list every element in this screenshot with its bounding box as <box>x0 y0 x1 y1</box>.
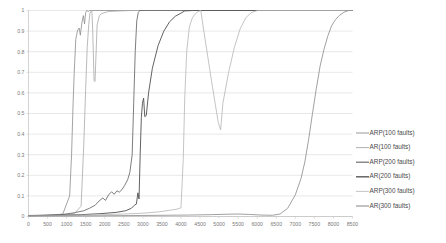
legend-label: AR(100 faults) <box>370 143 411 151</box>
x-tick-label: 1500 <box>80 221 92 227</box>
series-line-arp300-faults <box>29 11 353 216</box>
y-tick-label: 1 <box>22 7 25 13</box>
y-tick-label: 0.9 <box>17 28 24 34</box>
chart-container: 00.10.20.30.40.50.60.70.80.91 0500100015… <box>0 0 446 243</box>
x-tick-label: 1000 <box>61 221 73 227</box>
y-axis-tick-labels: 00.10.20.30.40.50.60.70.80.91 <box>17 7 28 219</box>
x-tick-label: 4000 <box>175 221 187 227</box>
y-tick-label: 0.7 <box>17 69 24 75</box>
chart-legend: ARP(100 faults)AR(100 faults)ARP(200 fau… <box>356 129 415 210</box>
series-line-arp200-faults <box>29 11 353 216</box>
y-tick-label: 0 <box>22 213 25 219</box>
y-tick-label: 0.2 <box>17 172 24 178</box>
x-tick-label: 5500 <box>232 221 244 227</box>
x-tick-label: 7500 <box>309 221 321 227</box>
legend-label: ARP(200 faults) <box>370 158 415 166</box>
x-tick-label: 7000 <box>290 221 302 227</box>
series-line-arp100-faults <box>29 11 353 216</box>
y-tick-label: 0.4 <box>17 131 24 137</box>
x-axis-tick-labels: 0500100015002000250030003500400045005000… <box>27 217 358 227</box>
y-tick-label: 0.1 <box>17 193 24 199</box>
line-chart: 00.10.20.30.40.50.60.70.80.91 0500100015… <box>0 0 446 243</box>
gridlines <box>29 11 353 217</box>
legend-label: ARP(100 faults) <box>370 129 415 137</box>
series-line-ar100-faults <box>29 11 353 216</box>
y-tick-label: 0.6 <box>17 90 24 96</box>
y-tick-label: 0.5 <box>17 110 24 116</box>
legend-label: AR(200 faults) <box>370 172 411 180</box>
y-tick-label: 0.3 <box>17 152 24 158</box>
series-line-ar200-faults <box>29 11 353 216</box>
x-tick-label: 4500 <box>194 221 206 227</box>
x-tick-label: 6500 <box>270 221 282 227</box>
x-tick-label: 8000 <box>328 221 340 227</box>
legend-label: AR(300 faults) <box>370 202 411 210</box>
legend-label: ARP(300 faults) <box>370 187 415 195</box>
x-tick-label: 0 <box>27 221 30 227</box>
x-tick-label: 6000 <box>251 221 263 227</box>
y-tick-label: 0.8 <box>17 49 24 55</box>
x-tick-label: 3500 <box>156 221 168 227</box>
x-tick-label: 2500 <box>118 221 130 227</box>
x-tick-label: 500 <box>43 221 52 227</box>
x-tick-label: 8500 <box>347 221 359 227</box>
x-tick-label: 5000 <box>213 221 225 227</box>
x-tick-label: 2000 <box>99 221 111 227</box>
x-tick-label: 3000 <box>137 221 149 227</box>
